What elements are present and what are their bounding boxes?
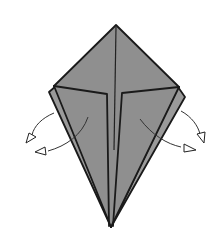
arrow-left-upper — [26, 113, 54, 143]
origami-diagram — [0, 0, 224, 245]
kite-base — [54, 25, 179, 227]
arrow-right-upper — [181, 111, 205, 143]
